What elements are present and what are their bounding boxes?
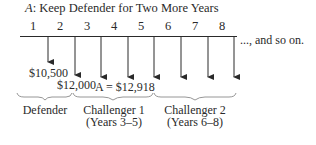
continuation-text: ..., and so on.	[240, 34, 304, 47]
group-label-defender: Defender	[17, 104, 73, 117]
group-sub-challenger-2: (Years 6–8)	[157, 116, 233, 129]
brace-defender	[17, 93, 72, 100]
brace-challenger-1	[73, 93, 153, 100]
group-sub-challenger-1: (Years 3–5)	[76, 116, 152, 129]
cash-flow-year-2: $12,000	[57, 79, 96, 92]
brace-challenger-2	[154, 93, 236, 100]
annuity-value: A = $12,918	[95, 81, 155, 94]
